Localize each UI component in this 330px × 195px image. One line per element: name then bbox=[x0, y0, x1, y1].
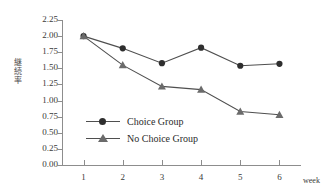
legend-label-no-choice-group: No Choice Group bbox=[127, 133, 198, 144]
series-line bbox=[84, 36, 280, 115]
series-choice-group bbox=[80, 33, 282, 69]
triangle-marker-icon bbox=[86, 134, 120, 144]
data-point-circle bbox=[159, 60, 165, 66]
plot-area bbox=[0, 0, 330, 195]
data-point-triangle bbox=[119, 61, 127, 68]
legend-label-choice-group: Choice Group bbox=[127, 116, 183, 127]
data-point-circle bbox=[237, 63, 243, 69]
data-point-triangle bbox=[158, 82, 166, 89]
series-line bbox=[84, 36, 280, 66]
data-point-circle bbox=[120, 45, 126, 51]
legend-item-choice-group: Choice Group bbox=[86, 113, 198, 130]
line-chart: 継 続 率 0.000.250.500.751.001.251.501.752.… bbox=[0, 0, 330, 195]
data-point-circle bbox=[198, 45, 204, 51]
circle-marker-icon bbox=[86, 117, 120, 127]
legend: Choice Group No Choice Group bbox=[86, 113, 198, 147]
data-point-triangle bbox=[236, 108, 244, 115]
data-point-circle bbox=[276, 61, 282, 67]
legend-item-no-choice-group: No Choice Group bbox=[86, 130, 198, 147]
